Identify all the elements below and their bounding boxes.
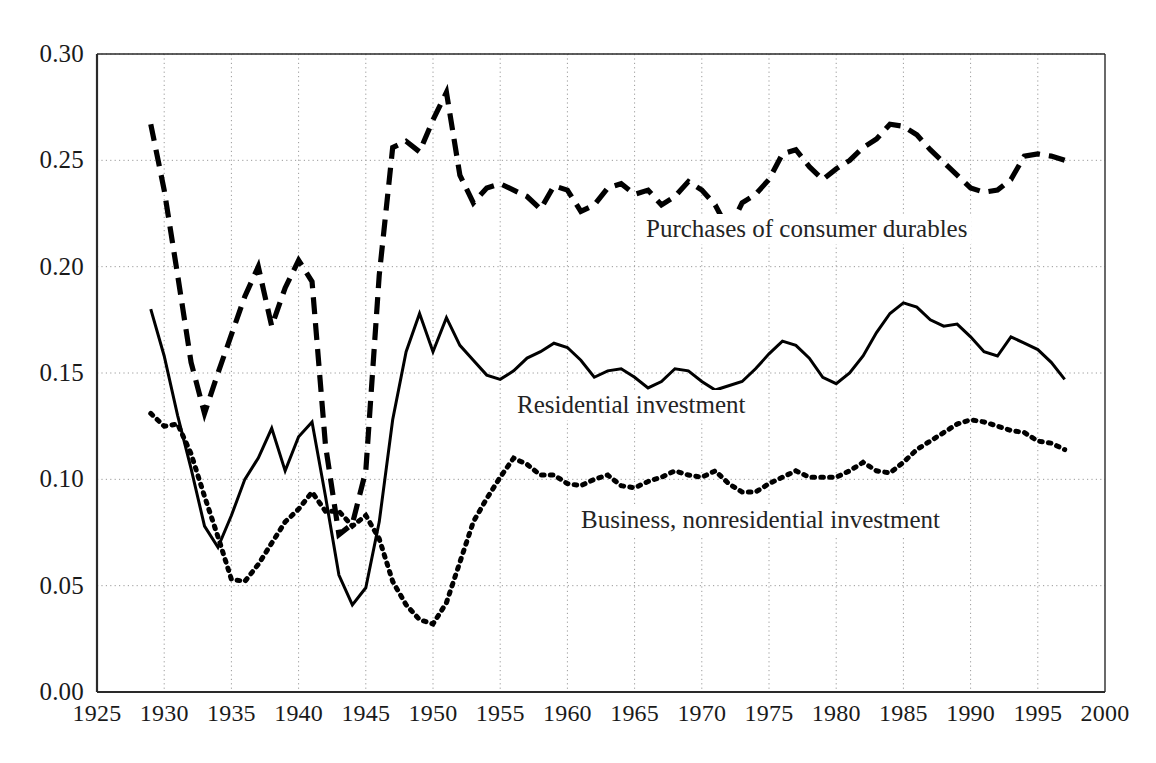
series-label-consumer-durables: Purchases of consumer durables [642,214,971,244]
y-tick-label-2: 0.10 [16,465,84,493]
x-tick-label-15: 2000 [1065,700,1145,727]
y-tick-label-5: 0.25 [16,146,84,174]
y-tick-label-4: 0.20 [16,253,84,281]
y-tick-label-3: 0.15 [16,359,84,387]
series-line-1 [151,303,1065,605]
series-label-business-nonresidential-investment: Business, nonresidential investment [577,505,944,535]
series-label-residential-investment: Residential investment [513,390,749,420]
chart-container: 0.000.050.100.150.200.250.30 19251930193… [0,0,1156,763]
y-tick-label-1: 0.05 [16,572,84,600]
y-tick-label-6: 0.30 [16,40,84,68]
series-line-0 [151,92,1065,534]
data-series-group [151,92,1065,624]
line-chart-plot [0,0,1156,763]
